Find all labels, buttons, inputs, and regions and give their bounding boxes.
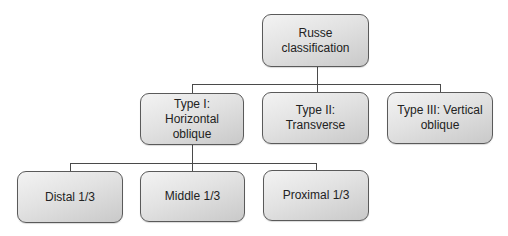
node-type-1-horizontal-oblique: Type I: Horizontal oblique [140,93,244,145]
connector-middle-up [192,163,193,171]
node-label: Distal 1/3 [45,190,95,205]
node-label: Type III: Vertical oblique [394,103,486,133]
node-distal-third: Distal 1/3 [17,171,123,223]
node-label: Type I: Horizontal oblique [155,97,229,142]
node-type-3-vertical-oblique: Type III: Vertical oblique [387,92,493,144]
node-middle-third: Middle 1/3 [140,171,245,222]
node-label: Middle 1/3 [165,189,220,204]
connector-type2-up [317,84,318,92]
node-label: Type II: Transverse [281,103,351,133]
connector-type1-up [192,84,193,93]
connector-type1-down [192,145,193,163]
connector-type3-up [440,84,441,92]
connector-proximal-up [316,163,317,170]
node-type-2-transverse: Type II: Transverse [262,92,369,144]
connector-distal-up [70,163,71,171]
connector-level2-bus [70,163,317,164]
node-russe-classification: Russe classification [262,14,369,67]
node-proximal-third: Proximal 1/3 [263,170,369,221]
node-label: Proximal 1/3 [283,188,350,203]
connector-root-down [317,67,318,84]
node-label: Russe classification [269,26,362,56]
